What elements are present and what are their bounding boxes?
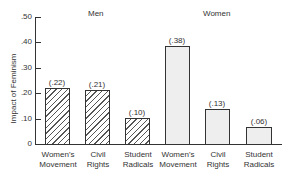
y-tick-label: .50 [10, 12, 32, 21]
y-tick-label: 0 [10, 139, 32, 148]
y-tick-label: .40 [10, 37, 32, 46]
category-label: Women'sMovement [36, 150, 80, 170]
bar-men-civil-rights [85, 90, 110, 145]
bar-women-womens-movement [165, 46, 190, 145]
bar-women-civil-rights [205, 109, 230, 145]
bar-men-womens-movement [45, 88, 70, 145]
y-tick [35, 119, 41, 120]
value-label: (.13) [202, 99, 232, 108]
y-tick-label: .30 [10, 63, 32, 72]
bar-women-student-radicals [246, 127, 272, 145]
value-label: (.38) [162, 36, 192, 45]
y-tick [35, 42, 41, 43]
x-axis [35, 144, 282, 145]
value-label: (.22) [42, 78, 72, 87]
group-title-women: Women [203, 9, 230, 18]
y-tick [35, 68, 41, 69]
category-label: CivilRights [196, 150, 240, 170]
category-label: CivilRights [76, 150, 120, 170]
y-axis [35, 17, 36, 145]
group-title-men: Men [88, 9, 104, 18]
category-label: Women'sMovement [156, 150, 200, 170]
category-label: StudentRadicals [116, 150, 160, 170]
y-tick-label: .10 [10, 114, 32, 123]
y-tick [35, 17, 41, 18]
value-label: (.10) [122, 108, 152, 117]
category-label: StudentRadicals [237, 150, 281, 170]
bar-men-student-radicals [125, 118, 150, 145]
value-label: (.21) [82, 80, 112, 89]
y-tick-label: .20 [10, 88, 32, 97]
value-label: (.06) [244, 117, 274, 126]
y-tick [35, 93, 41, 94]
